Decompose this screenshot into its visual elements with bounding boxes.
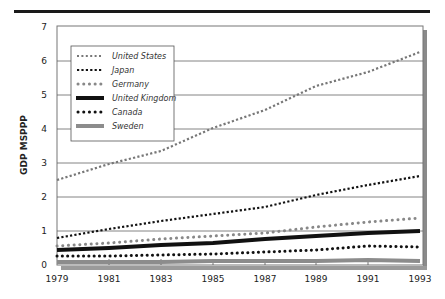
legend-label-sweden: Sweden (112, 122, 144, 131)
legend-label-germany: Germany (112, 80, 149, 89)
x-tick-1983: 1983 (150, 274, 173, 284)
legend-label-united-kingdom: United Kingdom (112, 94, 176, 103)
plot-shadow-right (423, 30, 427, 270)
x-tick-1985: 1985 (202, 274, 225, 284)
y-axis-labels: 0 1 2 3 4 5 6 7 (41, 22, 47, 270)
y-tick-2: 2 (41, 192, 47, 202)
y-tick-5: 5 (41, 90, 47, 100)
legend-label-united-states: United States (112, 52, 166, 61)
plot-shadow-bottom (61, 266, 427, 270)
x-tick-1987: 1987 (254, 274, 277, 284)
x-tick-1979: 1979 (46, 274, 69, 284)
x-tick-1981: 1981 (98, 274, 121, 284)
y-tick-3: 3 (41, 158, 47, 168)
y-tick-6: 6 (41, 56, 47, 66)
y-axis-title: GDP MSPPP (19, 115, 29, 175)
y-tick-4: 4 (41, 124, 47, 134)
y-tick-1: 1 (41, 226, 47, 236)
x-axis-labels: 1979 1981 1983 1985 1987 1989 1991 1993 (46, 274, 432, 284)
x-tick-1993: 1993 (409, 274, 432, 284)
gdp-line-chart: United States Japan Germany United Kingd… (0, 0, 445, 299)
y-tick-7: 7 (41, 22, 47, 32)
legend-label-japan: Japan (110, 66, 134, 75)
legend-label-canada: Canada (112, 108, 143, 117)
y-tick-0: 0 (41, 260, 47, 270)
x-tick-1991: 1991 (357, 274, 380, 284)
series-sweden (57, 260, 420, 262)
x-tick-1989: 1989 (305, 274, 328, 284)
legend: United States Japan Germany United Kingd… (71, 46, 176, 141)
